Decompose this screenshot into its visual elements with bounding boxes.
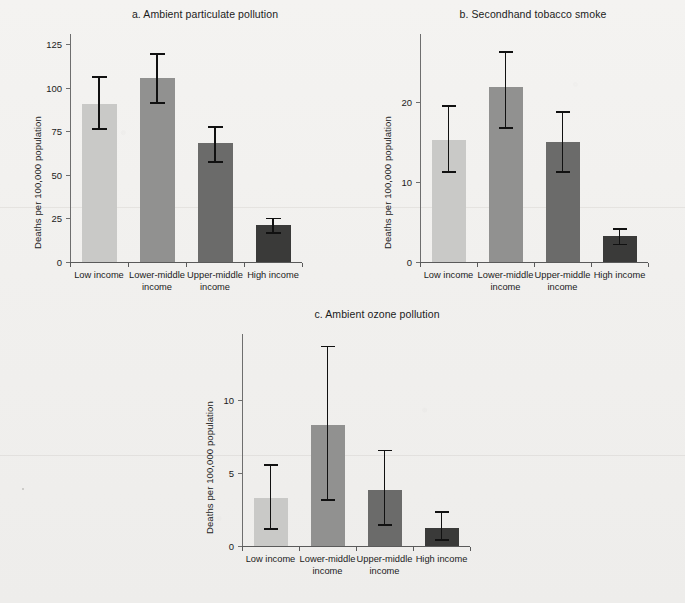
bar (140, 78, 175, 262)
error-bar-line (327, 346, 329, 500)
error-bar-cap-upper (499, 51, 513, 53)
y-axis-line (242, 334, 243, 546)
x-axis-tick-label: High income (240, 270, 306, 282)
x-axis-tick-label: Low income (416, 270, 481, 282)
error-bar-cap-lower (378, 524, 392, 526)
x-axis-tick (302, 263, 303, 267)
y-axis-tick (238, 400, 242, 401)
x-axis-tick (470, 547, 471, 551)
x-axis-tick-label: Upper-middle income (352, 554, 417, 577)
y-axis-tick-label: 5 (200, 467, 234, 478)
error-bar-cap-lower (442, 171, 456, 173)
x-axis-tick-label: Lower-middle income (124, 270, 190, 293)
y-axis-tick (66, 131, 70, 132)
chart-panel-c: c. Ambient ozone pollution Deaths per 10… (186, 308, 538, 598)
error-bar-line (98, 76, 100, 128)
x-axis-tick-label: Lower-middle income (473, 270, 538, 293)
y-axis-tick-label: 20 (378, 97, 412, 108)
x-axis-tick (299, 547, 300, 551)
y-axis-tick-label: 0 (378, 257, 412, 268)
chart-c-title: c. Ambient ozone pollution (186, 308, 538, 320)
y-axis-line (70, 34, 71, 262)
y-axis-tick-label: 10 (200, 394, 234, 405)
x-axis-tick (648, 263, 649, 267)
y-axis-tick-label: 10 (378, 177, 412, 188)
error-bar-cap-upper (208, 126, 223, 128)
error-bar-line (214, 126, 216, 161)
x-axis-tick (534, 263, 535, 267)
x-axis-tick (420, 263, 421, 267)
x-axis-tick (242, 547, 243, 551)
error-bar-cap-lower (208, 161, 223, 163)
error-bar-line (270, 464, 272, 528)
error-bar-cap-upper (92, 76, 107, 78)
error-bar-cap-upper (321, 346, 335, 348)
chart-a-title: a. Ambient particulate pollution (18, 8, 370, 20)
error-bar-cap-lower (92, 128, 107, 130)
error-bar-line (505, 51, 507, 127)
y-axis-tick (416, 102, 420, 103)
y-axis-tick (66, 88, 70, 89)
x-axis-tick (70, 263, 71, 267)
chart-c-axes: 0510Low incomeLower-middle incomeUpper-m… (242, 334, 470, 546)
x-axis-tick-label: High income (409, 554, 474, 566)
error-bar-cap-upper (378, 450, 392, 452)
error-bar-cap-upper (435, 511, 449, 513)
error-bar-cap-lower (613, 244, 627, 246)
error-bar-line (384, 450, 386, 525)
error-bar-cap-lower (264, 528, 278, 530)
error-bar-cap-lower (266, 232, 281, 234)
paper-speck (22, 488, 24, 490)
y-axis-tick-label: 50 (28, 169, 62, 180)
error-bar-cap-lower (150, 102, 165, 104)
error-bar-line (562, 111, 564, 171)
y-axis-tick (238, 473, 242, 474)
error-bar-cap-lower (556, 171, 570, 173)
error-bar-cap-upper (556, 111, 570, 113)
x-axis-tick-label: Low income (66, 270, 132, 282)
error-bar-line (272, 218, 274, 233)
x-axis-tick (356, 547, 357, 551)
y-axis-tick-label: 0 (28, 257, 62, 268)
error-bar-cap-lower (321, 499, 335, 501)
y-axis-tick (416, 182, 420, 183)
y-axis-line (420, 34, 421, 262)
x-axis-tick (413, 547, 414, 551)
x-axis-tick-label: Lower-middle income (295, 554, 360, 577)
chart-b-title: b. Secondhand tobacco smoke (372, 8, 684, 20)
error-bar-cap-lower (435, 539, 449, 541)
y-axis-tick-label: 0 (200, 541, 234, 552)
y-axis-tick-label: 125 (28, 39, 62, 50)
chart-panel-a: a. Ambient particulate pollution Deaths … (18, 8, 370, 308)
y-axis-tick-label: 25 (28, 213, 62, 224)
x-axis-tick (128, 263, 129, 267)
error-bar-line (448, 105, 450, 171)
error-bar-cap-upper (264, 464, 278, 466)
y-axis-tick-label: 100 (28, 82, 62, 93)
x-axis-tick (244, 263, 245, 267)
x-axis-tick-label: Upper-middle income (182, 270, 248, 293)
error-bar-cap-upper (266, 218, 281, 220)
error-bar-cap-upper (150, 53, 165, 55)
x-axis-tick-label: High income (587, 270, 652, 282)
x-axis-tick (477, 263, 478, 267)
y-axis-tick-label: 75 (28, 126, 62, 137)
error-bar-line (156, 53, 158, 102)
error-bar-line (619, 228, 621, 243)
chart-b-axes: 01020Low incomeLower-middle incomeUpper-… (420, 34, 648, 262)
x-axis-tick (591, 263, 592, 267)
error-bar-cap-upper (613, 228, 627, 230)
error-bar-cap-lower (499, 127, 513, 129)
chart-panel-b: b. Secondhand tobacco smoke Deaths per 1… (372, 8, 684, 308)
chart-a-axes: 0255075100125Low incomeLower-middle inco… (70, 34, 302, 262)
error-bar-cap-upper (442, 105, 456, 107)
x-axis-tick (186, 263, 187, 267)
x-axis-tick-label: Low income (238, 554, 303, 566)
y-axis-tick (66, 218, 70, 219)
error-bar-line (441, 511, 443, 540)
y-axis-tick (66, 175, 70, 176)
y-axis-tick (66, 44, 70, 45)
x-axis-tick-label: Upper-middle income (530, 270, 595, 293)
